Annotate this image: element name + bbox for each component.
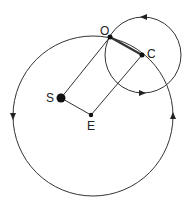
- arrow-right-bottom-icon: [139, 90, 146, 96]
- label-e: E: [87, 119, 95, 133]
- line-o-c: [110, 37, 142, 55]
- diagram-canvas: S E O C: [0, 0, 190, 213]
- line-s-e: [61, 98, 91, 115]
- label-o: O: [100, 24, 109, 38]
- arrow-down-left-icon: [10, 113, 16, 120]
- arrow-left-top-icon: [140, 14, 147, 20]
- arrow-up-right-icon: [170, 112, 176, 119]
- line-s-o: [61, 37, 110, 98]
- point-s-sun: [57, 94, 66, 103]
- point-e-earth: [89, 113, 93, 117]
- label-c: C: [147, 47, 156, 61]
- point-c: [140, 53, 145, 58]
- line-e-c: [91, 55, 142, 115]
- label-s: S: [46, 91, 54, 105]
